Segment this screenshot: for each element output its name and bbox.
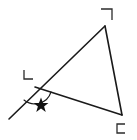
geometry-figure-canvas xyxy=(0,0,137,140)
geometry-diagram-svg xyxy=(0,0,137,140)
figure-background xyxy=(0,0,137,140)
